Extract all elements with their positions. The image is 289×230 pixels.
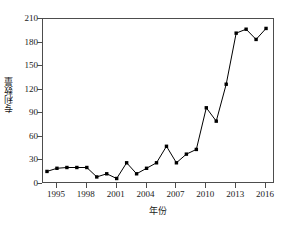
data-point-marker — [95, 175, 98, 178]
x-tick-mark — [56, 183, 57, 188]
y-axis-title-text: 专利数量 — [3, 77, 13, 113]
series-markers-group — [45, 27, 267, 180]
data-point-marker — [215, 119, 218, 122]
x-tick-mark — [116, 183, 117, 188]
data-point-marker — [65, 166, 68, 169]
x-tick-label: 1998 — [77, 190, 95, 199]
x-axis-title: 年份 — [42, 206, 274, 216]
data-point-marker — [85, 166, 88, 169]
y-tick-mark — [37, 42, 42, 43]
plot-area — [42, 18, 274, 183]
y-tick-mark — [37, 18, 42, 19]
data-point-marker — [244, 28, 247, 31]
data-point-marker — [175, 161, 178, 164]
data-point-marker — [105, 172, 108, 175]
x-tick-label: 2004 — [137, 190, 155, 199]
y-tick-label: 120 — [25, 84, 39, 93]
y-tick-mark — [37, 183, 42, 184]
data-point-marker — [75, 166, 78, 169]
data-point-marker — [125, 161, 128, 164]
y-tick-mark — [37, 136, 42, 137]
y-tick-label: 180 — [25, 37, 39, 46]
data-point-marker — [55, 167, 58, 170]
data-point-marker — [115, 177, 118, 180]
x-axis-title-text: 年份 — [149, 206, 167, 216]
y-tick-label: 210 — [25, 14, 39, 23]
series-line-patent-count — [47, 28, 266, 178]
x-tick-label: 2001 — [107, 190, 125, 199]
data-point-marker — [264, 27, 267, 30]
y-tick-mark — [37, 159, 42, 160]
x-tick-mark — [146, 183, 147, 188]
data-point-marker — [165, 145, 168, 148]
data-point-marker — [195, 148, 198, 151]
x-tick-mark — [205, 183, 206, 188]
x-tick-label: 2016 — [256, 190, 274, 199]
x-tick-mark — [175, 183, 176, 188]
y-tick-mark — [37, 89, 42, 90]
patent-count-line-chart: 专利数量 0306090120150180210 年份 199519982001… — [0, 0, 289, 230]
x-tick-mark — [86, 183, 87, 188]
x-tick-label: 2007 — [166, 190, 184, 199]
data-point-marker — [155, 161, 158, 164]
x-tick-mark — [235, 183, 236, 188]
data-point-marker — [234, 31, 237, 34]
data-point-marker — [185, 152, 188, 155]
x-tick-mark — [265, 183, 266, 188]
x-tick-label: 1995 — [47, 190, 65, 199]
data-point-marker — [225, 83, 228, 86]
data-point-marker — [205, 106, 208, 109]
data-point-marker — [254, 38, 257, 41]
y-tick-label: 150 — [25, 61, 39, 70]
x-tick-label: 2010 — [196, 190, 214, 199]
data-point-marker — [145, 167, 148, 170]
y-tick-mark — [37, 65, 42, 66]
data-point-marker — [45, 170, 48, 173]
x-tick-label: 2013 — [226, 190, 244, 199]
data-series-svg — [43, 19, 275, 184]
data-point-marker — [135, 172, 138, 175]
y-tick-mark — [37, 112, 42, 113]
